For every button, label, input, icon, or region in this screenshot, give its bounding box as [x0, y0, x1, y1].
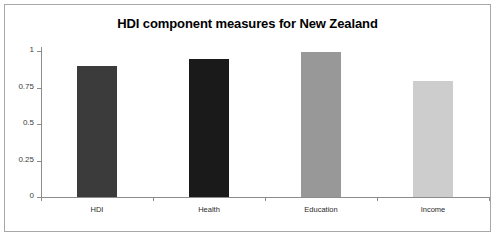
- x-tick-mark: [489, 197, 490, 201]
- y-tick-label: 0.75: [18, 82, 34, 91]
- x-axis-label: Income: [421, 205, 446, 214]
- bar-education[interactable]: [301, 52, 341, 197]
- x-tick-mark: [41, 197, 42, 201]
- y-tick: 0.25: [41, 161, 42, 162]
- y-tick-label: 0: [30, 191, 34, 200]
- chart-title: HDI component measures for New Zealand: [5, 16, 490, 31]
- x-tick-mark: [265, 197, 266, 201]
- y-tick: 0.5: [41, 124, 42, 125]
- y-tick-mark: [37, 88, 42, 89]
- bar-health[interactable]: [189, 59, 229, 197]
- x-tick-mark: [377, 197, 378, 201]
- y-tick: 0.75: [41, 88, 42, 89]
- y-axis-line: [41, 47, 42, 197]
- y-tick-label: 0.5: [23, 118, 34, 127]
- x-tick-mark: [153, 197, 154, 201]
- x-axis-label: HDI: [91, 205, 104, 214]
- y-tick: 1: [41, 51, 42, 52]
- bar-hdi[interactable]: [77, 66, 117, 197]
- bar-income[interactable]: [413, 81, 453, 197]
- y-tick-label: 0.25: [18, 155, 34, 164]
- y-tick-label: 1: [30, 45, 34, 54]
- y-tick-mark: [37, 51, 42, 52]
- y-tick-mark: [37, 161, 42, 162]
- x-axis-label: Education: [304, 205, 337, 214]
- x-axis-label: Health: [198, 205, 220, 214]
- plot-area: 00.250.50.751 HDIHealthEducationIncome: [41, 51, 489, 197]
- y-tick-mark: [37, 124, 42, 125]
- chart-frame: HDI component measures for New Zealand 0…: [4, 4, 491, 232]
